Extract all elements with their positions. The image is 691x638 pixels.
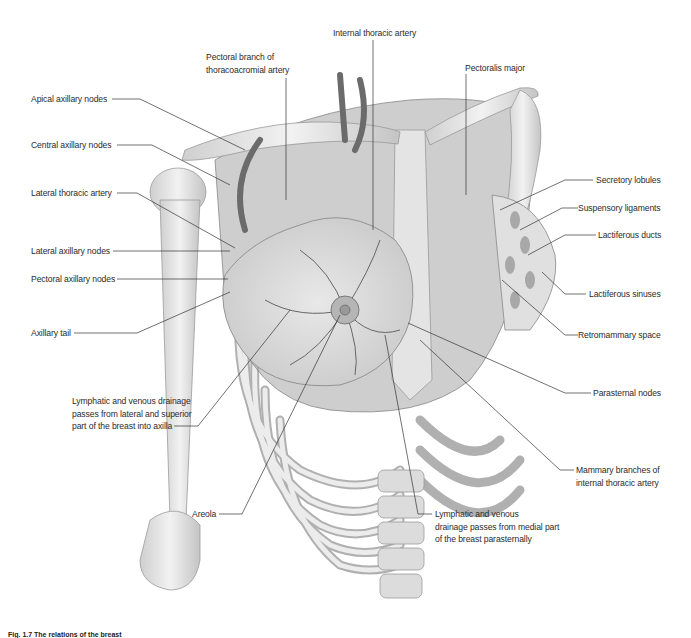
- figure-caption: Fig. 1.7 The relations of the breast: [8, 631, 122, 638]
- label-retromammary-space: Retromammary space: [578, 329, 661, 342]
- label-areola: Areola: [192, 508, 216, 521]
- nipple-shape: [340, 305, 350, 315]
- label-pectoralis-major: Pectoralis major: [465, 62, 525, 75]
- label-secretory-lobules: Secretory lobules: [596, 174, 661, 187]
- label-apical-axillary-nodes: Apical axillary nodes: [31, 93, 107, 106]
- label-central-axillary-nodes: Central axillary nodes: [31, 139, 111, 152]
- label-internal-thoracic-artery: Internal thoracic artery: [333, 27, 416, 40]
- label-medial-drainage: Lymphatic and venous drainage passes fro…: [435, 508, 559, 546]
- anatomy-figure: Internal thoracic artery Pectoral branch…: [0, 0, 691, 638]
- humerus: [140, 168, 206, 590]
- vertebral-column: [378, 470, 424, 598]
- label-mammary-branches-internal-thoracic-artery: Mammary branches of internal thoracic ar…: [576, 464, 660, 489]
- label-pectoral-branch-thoracoacromial-artery: Pectoral branch of thoracoacromial arter…: [206, 51, 289, 76]
- label-axillary-tail: Axillary tail: [31, 327, 71, 340]
- label-lateral-thoracic-artery: Lateral thoracic artery: [31, 187, 112, 200]
- label-pectoral-axillary-nodes: Pectoral axillary nodes: [31, 273, 115, 286]
- label-lateral-axillary-nodes: Lateral axillary nodes: [31, 245, 110, 258]
- label-lactiferous-ducts: Lactiferous ducts: [598, 229, 661, 242]
- label-suspensory-ligaments: Suspensory ligaments: [578, 202, 661, 215]
- label-lactiferous-sinuses: Lactiferous sinuses: [589, 288, 661, 301]
- label-parasternal-nodes: Parasternal nodes: [593, 387, 661, 400]
- label-lateral-drainage: Lymphatic and venous drainage passes fro…: [72, 395, 192, 433]
